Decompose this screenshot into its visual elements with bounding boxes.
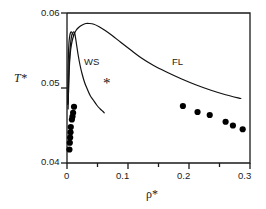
data-point — [67, 134, 73, 140]
data-point — [71, 104, 77, 110]
asterisk-annotation: * — [103, 76, 111, 91]
y-axis-title: T* — [14, 72, 27, 84]
y-tick-label-bottom: 0.04 — [41, 157, 60, 167]
data-point — [180, 103, 186, 109]
plot-canvas — [0, 0, 266, 209]
y-tick-label-top: 0.06 — [41, 8, 60, 18]
ws-curve-label: WS — [84, 57, 99, 67]
y-axis-ticks — [61, 13, 67, 163]
scatter-series-simulation-data — [66, 103, 245, 153]
data-point — [67, 129, 73, 135]
x-tick-label-0.2: 0.2 — [177, 171, 190, 181]
data-point — [69, 116, 75, 122]
x-tick-label-0: 0 — [64, 171, 69, 181]
y-tick-label-mid: 0.05 — [41, 78, 60, 88]
data-point — [194, 109, 200, 115]
data-point — [67, 140, 73, 146]
data-point — [66, 146, 72, 152]
data-point — [230, 122, 236, 128]
data-point — [207, 112, 213, 118]
x-axis-ticks — [67, 163, 250, 169]
data-series-layer — [66, 23, 245, 152]
x-axis-title: ρ* — [146, 188, 158, 200]
fl-curve-label: FL — [172, 57, 183, 67]
data-point — [240, 126, 246, 132]
curve-WS — [68, 32, 104, 113]
axis-frame — [67, 13, 250, 163]
x-tick-label-0.1: 0.1 — [116, 171, 129, 181]
phase-diagram-figure: 0.06 0.05 0.04 0 0.1 0.2 0.3 T* ρ* WS FL… — [0, 0, 266, 209]
plot-border — [67, 13, 250, 163]
data-point — [223, 119, 229, 125]
x-tick-label-0.3: 0.3 — [238, 171, 251, 181]
